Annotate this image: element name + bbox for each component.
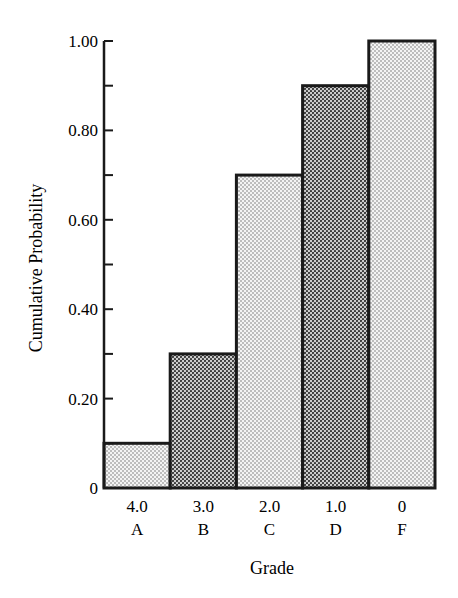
cumulative-probability-chart: 00.200.400.600.801.004.0A3.0B2.0C1.0D0FG… [0,0,458,598]
x-category-label: B [198,520,209,539]
y-tick-label: 0.80 [68,121,98,140]
x-value-label: 3.0 [193,497,214,516]
axes-group [104,41,113,488]
y-tick-label: 0.40 [68,300,98,319]
y-tick-label: 0.60 [68,211,98,230]
bar-d [303,86,369,488]
x-value-label: 2.0 [259,497,280,516]
bar-b [170,354,236,488]
y-axis-title: Cumulative Probability [26,184,46,353]
bars-group [104,41,435,488]
y-tick-label: 0 [90,479,99,498]
y-tick-label: 0.20 [68,390,98,409]
y-tick-label: 1.00 [68,32,98,51]
x-category-label: A [131,520,144,539]
x-axis-title: Grade [250,558,294,578]
x-value-label: 1.0 [325,497,346,516]
bar-c [236,175,302,488]
x-value-label: 4.0 [126,497,147,516]
x-category-label: C [264,520,275,539]
x-value-label: 0 [398,497,407,516]
bar-f [369,41,435,488]
bar-a [104,443,170,488]
x-category-label: D [330,520,342,539]
x-category-label: F [397,520,406,539]
